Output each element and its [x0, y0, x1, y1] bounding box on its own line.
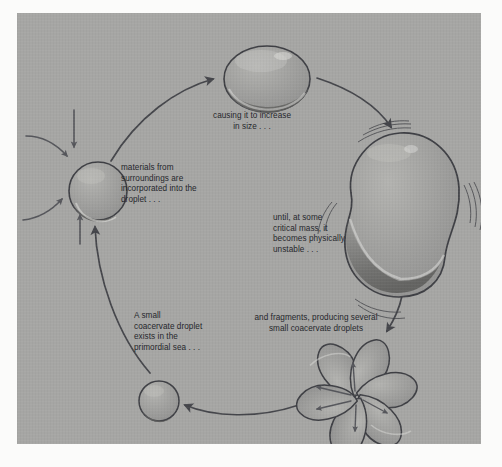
intake-arrow-lower-left	[23, 199, 62, 220]
stage-fragment-burst	[295, 334, 419, 444]
cycle-arrow-return	[185, 405, 299, 415]
cycle-arrow-unstable	[317, 78, 391, 127]
caption-unstable: until, at some critical mass, it becomes…	[273, 213, 345, 255]
figure-page: materials from surroundings are incorpor…	[0, 0, 502, 467]
caption-increase: causing it to increase in size . . .	[192, 111, 312, 132]
caption-materials: materials from surroundings are incorpor…	[121, 163, 197, 205]
stage-enlarged-droplet	[224, 46, 310, 113]
diagram-artwork	[17, 13, 481, 444]
stage-small-droplet	[139, 381, 179, 422]
caption-small-droplet: A small coacervate droplet exists in the…	[134, 311, 202, 353]
intake-arrow-left	[26, 136, 67, 156]
caption-fragments: and fragments, producing several small c…	[232, 313, 400, 334]
illustration-panel: materials from surroundings are incorpor…	[17, 13, 481, 444]
stage-absorbing-droplet	[69, 162, 127, 222]
